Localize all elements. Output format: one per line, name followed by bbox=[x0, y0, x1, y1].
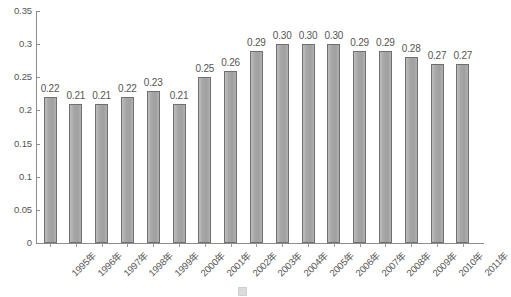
x-axis-category-label: 2001年 bbox=[223, 248, 254, 279]
x-axis-tick bbox=[411, 243, 412, 247]
x-axis-tick bbox=[127, 243, 128, 247]
y-axis-tick bbox=[36, 177, 40, 178]
x-axis-category-label: 1996年 bbox=[94, 248, 125, 279]
y-axis-tick-label: 0.25 bbox=[14, 71, 32, 82]
bar bbox=[173, 104, 186, 243]
x-axis-tick bbox=[308, 243, 309, 247]
x-axis-tick bbox=[282, 243, 283, 247]
x-axis-tick bbox=[179, 243, 180, 247]
x-axis-category-label: 2004年 bbox=[300, 248, 331, 279]
y-axis-tick bbox=[36, 44, 40, 45]
x-axis-tick bbox=[385, 243, 386, 247]
x-axis-tick bbox=[205, 243, 206, 247]
x-axis-category-label: 1995年 bbox=[68, 248, 99, 279]
bar bbox=[456, 64, 469, 243]
x-axis-tick bbox=[50, 243, 51, 247]
legend-swatch-icon bbox=[238, 287, 247, 296]
bar bbox=[302, 44, 315, 243]
bar bbox=[250, 51, 263, 243]
x-axis-line bbox=[36, 243, 484, 244]
x-axis-category-label: 2008年 bbox=[403, 248, 434, 279]
x-axis-tick bbox=[360, 243, 361, 247]
y-axis-tick-label: 0.35 bbox=[14, 5, 32, 16]
x-axis-category-label: 1997年 bbox=[119, 248, 150, 279]
bar-value-label: 0.21 bbox=[164, 90, 194, 101]
x-axis-tick bbox=[256, 243, 257, 247]
x-axis-category-label: 1998年 bbox=[145, 248, 176, 279]
bar bbox=[198, 77, 211, 243]
x-axis-category-label: 2010年 bbox=[455, 248, 486, 279]
x-axis-category-label: 2005年 bbox=[326, 248, 357, 279]
bar-value-label: 0.26 bbox=[216, 57, 246, 68]
y-axis-tick bbox=[36, 11, 40, 12]
bar bbox=[353, 51, 366, 243]
x-axis-category-label: 1999年 bbox=[171, 248, 202, 279]
bar bbox=[44, 97, 57, 243]
bar bbox=[276, 44, 289, 243]
x-axis-tick bbox=[102, 243, 103, 247]
bar-value-label: 0.27 bbox=[448, 50, 478, 61]
y-axis-tick bbox=[36, 243, 40, 244]
x-axis-category-label: 2002年 bbox=[248, 248, 279, 279]
x-axis-tick bbox=[334, 243, 335, 247]
bar bbox=[379, 51, 392, 243]
y-axis-tick-label: 0.1 bbox=[19, 171, 32, 182]
y-axis-tick-label: 0.3 bbox=[19, 38, 32, 49]
bar bbox=[69, 104, 82, 243]
x-axis-category-label: 2006年 bbox=[352, 248, 383, 279]
x-axis-tick bbox=[437, 243, 438, 247]
bar bbox=[327, 44, 340, 243]
bar bbox=[431, 64, 444, 243]
y-axis-tick-label: 0.05 bbox=[14, 204, 32, 215]
y-axis-tick bbox=[36, 110, 40, 111]
bar bbox=[224, 71, 237, 243]
chart-caption bbox=[0, 287, 488, 297]
bar bbox=[121, 97, 134, 243]
bar bbox=[147, 91, 160, 243]
x-axis-tick bbox=[153, 243, 154, 247]
x-axis-category-label: 2011年 bbox=[480, 248, 511, 279]
x-axis-category-label: 2007年 bbox=[377, 248, 408, 279]
bar bbox=[405, 57, 418, 243]
y-axis-tick bbox=[36, 144, 40, 145]
y-axis-tick-label: 0.15 bbox=[14, 138, 32, 149]
y-axis-line bbox=[36, 11, 37, 243]
bar bbox=[95, 104, 108, 243]
x-axis-category-label: 2009年 bbox=[429, 248, 460, 279]
x-axis-category-label: 2003年 bbox=[274, 248, 305, 279]
x-axis-tick bbox=[76, 243, 77, 247]
y-axis-tick-label: 0.2 bbox=[19, 104, 32, 115]
y-axis-tick-label: 0 bbox=[27, 237, 32, 248]
x-axis-tick bbox=[231, 243, 232, 247]
x-axis-category-label: 2000年 bbox=[197, 248, 228, 279]
x-axis-tick bbox=[463, 243, 464, 247]
y-axis-tick bbox=[36, 210, 40, 211]
y-axis-tick bbox=[36, 77, 40, 78]
bar-value-label: 0.23 bbox=[138, 77, 168, 88]
